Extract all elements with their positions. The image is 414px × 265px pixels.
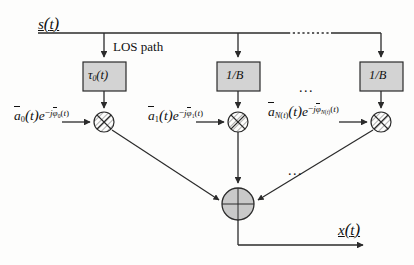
block-label-delay-1: 1/B <box>226 69 243 82</box>
arrow-mult-n-to-summer <box>258 130 373 200</box>
coefficient-label-1: a1(t)e−jφ1(t) <box>148 108 203 125</box>
los-path-annotation: LOS path <box>113 40 163 53</box>
ellipsis-top: ... <box>299 80 314 96</box>
arrow-mult0-to-summer <box>112 130 219 200</box>
coefficient-label-0: a0(t)e−jφ0(t) <box>14 108 69 125</box>
input-signal-label: s(t) <box>38 16 59 33</box>
coefficient-label-n: aN(t)(t)e−jφN(t)(t) <box>268 104 339 121</box>
output-signal-label: x(t) <box>338 222 360 239</box>
block-label-tau0: τ0(t) <box>88 69 108 83</box>
block-label-delay-n: 1/B <box>369 69 386 82</box>
diagram-canvas: s(t) LOS path τ0(t) 1/B 1/B a0(t)e−jφ0(t… <box>0 0 414 265</box>
ellipsis-bottom: ... <box>288 163 303 179</box>
summing-junction-group <box>222 188 254 220</box>
branch-1 <box>196 33 260 183</box>
